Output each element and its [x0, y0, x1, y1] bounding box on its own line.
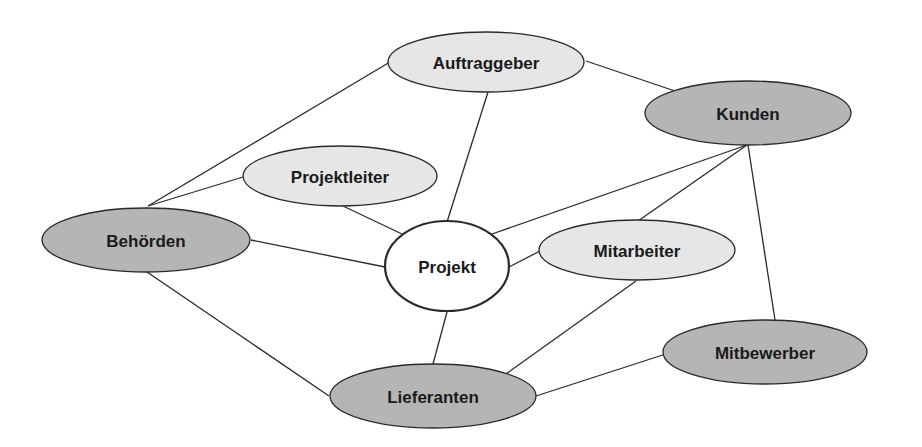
node-lieferanten: Lieferanten: [330, 364, 536, 428]
node-behoerden-label: Behörden: [106, 232, 185, 251]
node-kunden: Kunden: [645, 81, 851, 145]
edge-kunden-mitarbeiter: [638, 145, 747, 221]
node-auftraggeber: Auftraggeber: [388, 32, 584, 92]
nodes-layer: AuftraggeberKundenProjektleiterBehördenP…: [42, 32, 867, 428]
node-projekt: Projekt: [385, 221, 509, 311]
stakeholder-diagram: AuftraggeberKundenProjektleiterBehördenP…: [0, 0, 922, 447]
edge-mitarbeiter-lieferanten: [506, 281, 636, 374]
node-mitbewerber-label: Mitbewerber: [715, 344, 816, 363]
edge-behoerden-lieferanten: [147, 272, 329, 396]
edge-auftraggeber-kunden: [586, 61, 675, 91]
edge-kunden-mitbewerber: [748, 145, 775, 320]
node-kunden-label: Kunden: [716, 105, 779, 124]
edge-projekt-lieferanten: [433, 312, 447, 364]
node-projekt-label: Projekt: [418, 258, 476, 277]
edge-behoerden-projektleiter: [148, 177, 243, 206]
node-lieferanten-label: Lieferanten: [387, 388, 479, 407]
node-mitarbeiter: Mitarbeiter: [539, 220, 735, 280]
edge-projektleiter-projekt: [343, 206, 402, 234]
node-projektleiter: Projektleiter: [243, 146, 437, 206]
edge-projekt-mitarbeiter: [509, 251, 540, 267]
edge-lieferanten-mitbewerber: [536, 352, 672, 396]
node-mitbewerber: Mitbewerber: [663, 320, 867, 384]
edge-behoerden-projekt: [251, 240, 385, 267]
node-projektleiter-label: Projektleiter: [291, 168, 390, 187]
node-mitarbeiter-label: Mitarbeiter: [594, 242, 681, 261]
edge-auftraggeber-projekt: [447, 92, 488, 222]
node-auftraggeber-label: Auftraggeber: [433, 54, 540, 73]
node-behoerden: Behörden: [42, 208, 250, 272]
